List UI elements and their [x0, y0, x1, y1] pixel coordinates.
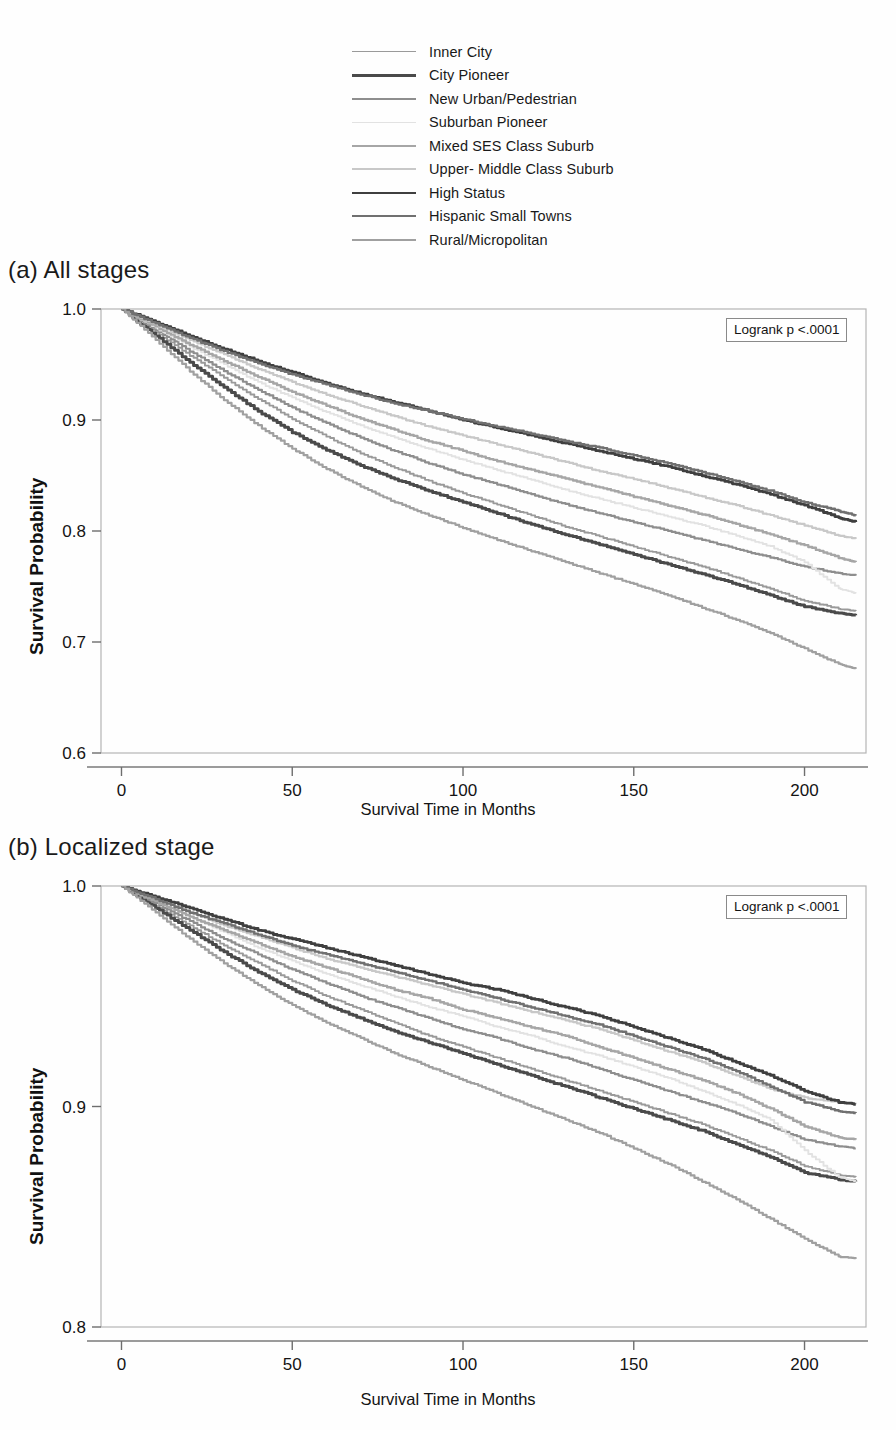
- y-axis-tick-label: 0.9: [62, 1098, 86, 1117]
- legend-line-swatch: [352, 122, 416, 123]
- legend-item-label: Suburban Pioneer: [429, 114, 548, 130]
- survival-curve: [121, 886, 855, 1181]
- y-axis-tick-label: 0.7: [62, 633, 86, 652]
- panel-b-logrank-annotation: Logrank p <.0001: [726, 895, 847, 919]
- x-axis-tick-label: 0: [117, 1355, 126, 1374]
- curves-group: [121, 309, 855, 669]
- legend-line-swatch: [352, 168, 416, 170]
- panel-b-title: (b) Localized stage: [8, 833, 215, 861]
- panel-a-x-axis-title: Survival Time in Months: [0, 800, 896, 819]
- legend-line-swatch: [352, 145, 416, 147]
- survival-curve-figure: Inner CityCity PioneerNew Urban/Pedestri…: [0, 0, 896, 1430]
- x-axis-tick-label: 0: [117, 781, 126, 800]
- legend-line-swatch: [352, 74, 416, 77]
- legend-item-label: Inner City: [429, 44, 492, 60]
- legend-line-swatch: [352, 239, 416, 241]
- legend-item-label: Rural/Micropolitan: [429, 232, 548, 248]
- survival-curve: [121, 886, 855, 1182]
- legend-line-swatch: [352, 215, 416, 217]
- legend-item-label: Hispanic Small Towns: [429, 208, 572, 224]
- y-axis-tick-label: 0.6: [62, 744, 86, 763]
- panel-b-x-axis-title: Survival Time in Months: [0, 1390, 896, 1409]
- curves-group: [121, 886, 855, 1259]
- panel-a-svg: 1.00.90.80.70.6050100150200: [0, 295, 896, 840]
- panel-b-svg: 1.00.90.8050100150200: [0, 872, 896, 1430]
- legend-line-swatch: [352, 192, 416, 194]
- x-axis-tick-label: 150: [620, 781, 648, 800]
- x-axis-tick-label: 200: [790, 1355, 818, 1374]
- panel-a-y-axis-title: Survival Probability: [26, 478, 48, 655]
- legend-item: Upper- Middle Class Suburb: [352, 158, 772, 182]
- legend-item-label: Upper- Middle Class Suburb: [429, 161, 614, 177]
- legend-item-label: High Status: [429, 185, 505, 201]
- x-axis-tick-label: 100: [449, 781, 477, 800]
- survival-curve: [121, 309, 855, 562]
- legend-item-label: Mixed SES Class Suburb: [429, 138, 594, 154]
- y-axis-tick-label: 1.0: [62, 300, 86, 319]
- chart-legend: Inner CityCity PioneerNew Urban/Pedestri…: [352, 40, 772, 252]
- y-axis-tick-label: 1.0: [62, 877, 86, 896]
- x-axis-tick-label: 100: [449, 1355, 477, 1374]
- legend-item-label: New Urban/Pedestrian: [429, 91, 577, 107]
- survival-curve: [121, 886, 855, 1177]
- legend-item-label: City Pioneer: [429, 67, 509, 83]
- panel-b-plot: 1.00.90.8050100150200: [0, 872, 896, 1430]
- y-axis-tick-label: 0.8: [62, 522, 86, 541]
- legend-item: City Pioneer: [352, 64, 772, 88]
- legend-item: Rural/Micropolitan: [352, 228, 772, 252]
- x-axis-tick-label: 150: [620, 1355, 648, 1374]
- legend-line-swatch: [352, 51, 416, 52]
- legend-item: Inner City: [352, 40, 772, 64]
- panel-a-plot: 1.00.90.80.70.6050100150200: [0, 295, 896, 840]
- plot-frame: [101, 309, 866, 753]
- legend-item: Suburban Pioneer: [352, 111, 772, 135]
- legend-item: Mixed SES Class Suburb: [352, 134, 772, 158]
- x-axis-tick-label: 200: [790, 781, 818, 800]
- x-axis-tick-label: 50: [283, 781, 302, 800]
- y-axis-tick-label: 0.9: [62, 411, 86, 430]
- x-axis-tick-label: 50: [283, 1355, 302, 1374]
- panel-b-y-axis-title: Survival Probability: [26, 1068, 48, 1245]
- legend-item: Hispanic Small Towns: [352, 205, 772, 229]
- plot-frame: [101, 886, 866, 1327]
- legend-line-swatch: [352, 98, 416, 100]
- panel-a-title: (a) All stages: [8, 256, 150, 284]
- panel-a-logrank-annotation: Logrank p <.0001: [726, 318, 847, 342]
- legend-item: New Urban/Pedestrian: [352, 87, 772, 111]
- legend-item: High Status: [352, 181, 772, 205]
- y-axis-tick-label: 0.8: [62, 1318, 86, 1337]
